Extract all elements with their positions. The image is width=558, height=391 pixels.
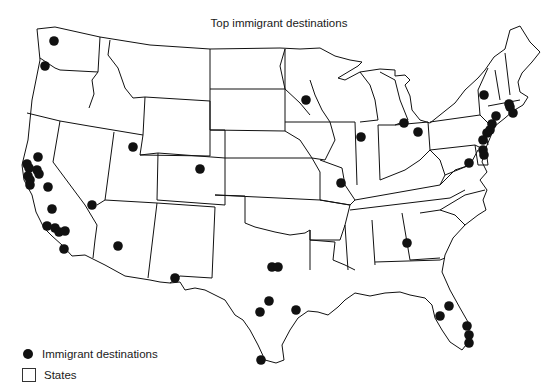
destination-dot <box>402 238 412 248</box>
destination-dot <box>47 204 57 214</box>
nv-ut-border <box>97 132 114 205</box>
id-nv-ut-border <box>89 97 145 135</box>
empty-square-icon <box>22 368 36 382</box>
destination-dot <box>464 158 474 168</box>
destination-dot <box>464 338 474 348</box>
destination-dot <box>49 36 59 46</box>
legend: Immigrant destinations States <box>22 343 158 385</box>
destination-dot <box>462 321 472 331</box>
destination-dot <box>508 108 518 118</box>
wy-co-border <box>140 101 210 156</box>
destination-dot <box>478 135 488 145</box>
mt-wy-border <box>145 97 210 101</box>
filled-circle-icon <box>23 349 33 359</box>
destination-dot <box>60 226 70 236</box>
or-ca-nv-border <box>27 113 89 126</box>
destination-dot <box>40 61 50 71</box>
destination-dot <box>273 262 283 272</box>
wi-border <box>310 80 355 122</box>
id-mt-border <box>108 40 145 98</box>
us-states-map <box>0 0 558 391</box>
destination-dot <box>479 90 489 100</box>
destination-dots <box>22 36 518 365</box>
destination-dot <box>33 152 43 162</box>
destination-dot <box>170 273 180 283</box>
destination-dot <box>113 241 123 251</box>
destination-dot <box>399 118 409 128</box>
az-nm-border <box>105 200 157 278</box>
destination-dot <box>255 307 265 317</box>
state-outlines <box>22 26 540 363</box>
va-wv-border <box>430 150 478 185</box>
ok-tx-border <box>215 195 310 235</box>
destination-dot <box>435 311 445 321</box>
legend-item-destinations: Immigrant destinations <box>22 343 158 364</box>
ut-co-border <box>140 135 158 200</box>
ca-nv-border <box>53 121 97 258</box>
destination-dot <box>25 180 35 190</box>
pa-ny-border <box>430 115 490 150</box>
destination-dot <box>264 296 274 306</box>
wa-id-border <box>89 37 100 108</box>
dakotas-border <box>210 49 285 131</box>
destination-dot <box>256 355 266 365</box>
nm-border <box>157 203 215 283</box>
co-border <box>157 153 225 205</box>
ne-border <box>210 101 312 158</box>
destination-dot <box>87 200 97 210</box>
us-outline <box>22 26 540 363</box>
destination-dot <box>34 169 44 179</box>
destination-dot <box>504 99 514 109</box>
destination-dot <box>291 305 301 315</box>
ar-border <box>310 200 350 240</box>
destination-dot <box>444 301 454 311</box>
destination-dot <box>43 182 53 192</box>
destination-dot <box>195 164 205 174</box>
destination-dot <box>336 178 346 188</box>
mi-border <box>360 72 408 125</box>
destination-dot <box>301 95 311 105</box>
destination-dot <box>413 127 423 137</box>
destination-dot <box>356 132 366 142</box>
destination-dot <box>479 150 489 160</box>
destination-dot <box>59 244 69 254</box>
legend-label-destinations: Immigrant destinations <box>42 348 158 360</box>
legend-label-states: States <box>44 369 77 381</box>
sc-nc-border <box>420 190 485 225</box>
destination-dot <box>128 142 138 152</box>
ks-border <box>215 158 320 200</box>
la-border <box>310 240 355 270</box>
destination-dot <box>42 221 52 231</box>
legend-item-states: States <box>22 364 158 385</box>
